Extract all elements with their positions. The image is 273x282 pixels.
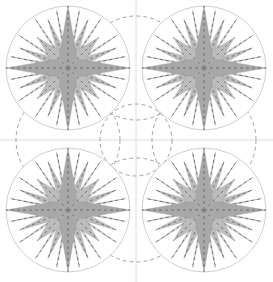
compass-star-quilt-diagram: [0, 0, 273, 282]
